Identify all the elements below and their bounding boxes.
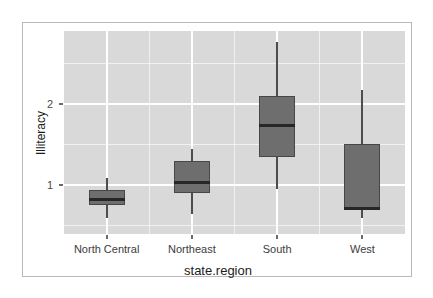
whisker-upper [276,42,278,96]
y-axis-title: Illiteracy [35,103,47,163]
whisker-lower [191,193,193,213]
x-tick-label-1: Northeast [168,244,216,255]
boxplot-north-central[interactable] [64,31,149,234]
x-tick-mark-3 [361,235,363,239]
whisker-lower [106,205,108,218]
x-tick-mark-2 [276,235,278,239]
box-iqr [344,144,380,209]
median-line [259,124,295,127]
x-tick-mark-0 [106,235,108,239]
x-tick-label-2: South [263,244,292,255]
whisker-upper [361,90,363,144]
median-line [89,198,125,201]
box-iqr [174,161,210,193]
median-line [344,207,380,210]
y-tick-label-0: 1 [47,180,53,191]
x-tick-mark-1 [191,235,193,239]
x-tick-label-0: North Central [74,244,139,255]
whisker-upper [106,178,108,190]
y-tick-mark-0 [59,184,63,186]
median-line [174,181,210,184]
plot-panel [64,31,405,234]
figure-frame: 12 Illiteracy North CentralNortheastSout… [22,22,412,277]
boxplot-west[interactable] [320,31,405,234]
x-axis-title: state.region [23,264,413,277]
boxplot-northeast[interactable] [149,31,234,234]
y-tick-label-1: 2 [47,99,53,110]
boxplot-south[interactable] [235,31,320,234]
x-tick-label-3: West [350,244,375,255]
whisker-upper [191,149,193,161]
y-tick-mark-1 [59,103,63,105]
whisker-lower [276,157,278,189]
